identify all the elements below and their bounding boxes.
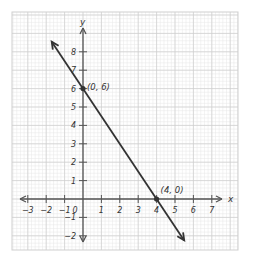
point-label: (4, 0) bbox=[161, 185, 184, 195]
y-tick-label: 1 bbox=[71, 177, 76, 186]
x-tick-label: 4 bbox=[154, 206, 159, 215]
point-label: (0, 6) bbox=[87, 82, 110, 92]
x-tick-label: 5 bbox=[172, 206, 177, 215]
x-axis-label: x bbox=[227, 194, 234, 204]
y-tick-label: 8 bbox=[71, 48, 76, 57]
y-axis-label: y bbox=[79, 17, 86, 27]
origin-label: 0 bbox=[72, 206, 77, 215]
y-tick-label: 5 bbox=[71, 103, 76, 112]
x-tick-label: −2 bbox=[40, 206, 52, 215]
x-tick-label: 1 bbox=[99, 206, 104, 215]
x-tick-label: 2 bbox=[117, 206, 122, 215]
x-tick-label: 7 bbox=[209, 206, 215, 215]
y-tick-label: 3 bbox=[71, 140, 76, 149]
x-tick-label: 6 bbox=[191, 206, 196, 215]
x-tick-label: 3 bbox=[136, 206, 141, 215]
coordinate-graph: xy −3−2−11234567−2−1123456780 (0, 6)(4, … bbox=[0, 0, 256, 264]
y-tick-label: −2 bbox=[64, 232, 76, 241]
y-tick-label: 4 bbox=[71, 121, 76, 130]
x-tick-label: −3 bbox=[22, 206, 34, 215]
y-tick-label: 6 bbox=[71, 85, 76, 94]
y-tick-label: 2 bbox=[71, 158, 76, 167]
point-marker bbox=[80, 86, 85, 91]
point-marker bbox=[154, 196, 159, 201]
